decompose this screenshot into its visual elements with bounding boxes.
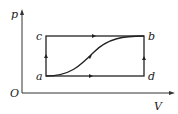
p-axis-arrow-icon — [20, 9, 24, 15]
arrow-a-c-icon — [44, 54, 48, 58]
arrow-a-d-icon — [89, 74, 93, 78]
v-axis-arrow-icon — [169, 91, 175, 95]
arrow-d-b-icon — [142, 56, 146, 60]
p-axis-label: p — [11, 8, 18, 21]
v-axis-label: V — [154, 100, 163, 113]
curve-a-b — [46, 36, 144, 76]
point-b-label: b — [148, 30, 155, 43]
arrow-c-b-icon — [92, 34, 96, 38]
point-d-label: d — [148, 70, 155, 83]
origin-label: O — [10, 87, 19, 100]
cycle-rectangle — [46, 36, 144, 76]
point-a-label: a — [36, 70, 43, 83]
point-c-label: c — [36, 30, 42, 43]
pv-diagram: p V O c a b d — [0, 0, 178, 114]
